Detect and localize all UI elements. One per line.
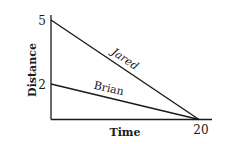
jared-line bbox=[51, 20, 199, 120]
y-tick-2: 2 bbox=[38, 78, 46, 92]
y-tick-5: 5 bbox=[38, 14, 46, 28]
brian-line bbox=[51, 84, 199, 120]
x-tick-20: 20 bbox=[193, 123, 208, 137]
x-axis-title: Time bbox=[109, 126, 140, 139]
distance-time-chart: 5 2 20 Time Distance Jared Brian bbox=[0, 0, 229, 144]
y-axis-title: Distance bbox=[26, 43, 39, 97]
